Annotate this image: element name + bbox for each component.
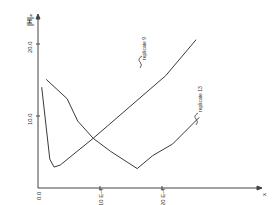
origin-label: 0.0 [36, 191, 42, 200]
axes [36, 14, 262, 190]
chart-container: 0.0 10 E-4 20 E-4 x 10.0 20.0 |H|₂ repli… [0, 0, 272, 205]
y-axis-arrow-icon [36, 14, 40, 19]
x-tick-label-1: 10 E-4 [98, 188, 104, 205]
series-group [42, 40, 200, 169]
x-tick-label-2: 20 E-4 [160, 188, 166, 205]
x-axis-arrow-icon [257, 186, 262, 190]
x-axis-label: x [261, 193, 267, 196]
y-axis-label: |H|₂ [26, 14, 34, 26]
series-line-replicate-9 [42, 40, 196, 167]
series-line-replicate-13 [46, 79, 199, 168]
y-tick-label-2: 20.0 [27, 41, 33, 53]
series-label-replicate-9: replicate 9 [141, 37, 147, 60]
series-label-replicate-13: replicate 13 [197, 86, 203, 112]
y-tick-label-1: 10.0 [27, 113, 33, 125]
line-chart: 0.0 10 E-4 20 E-4 x 10.0 20.0 |H|₂ repli… [0, 0, 272, 205]
